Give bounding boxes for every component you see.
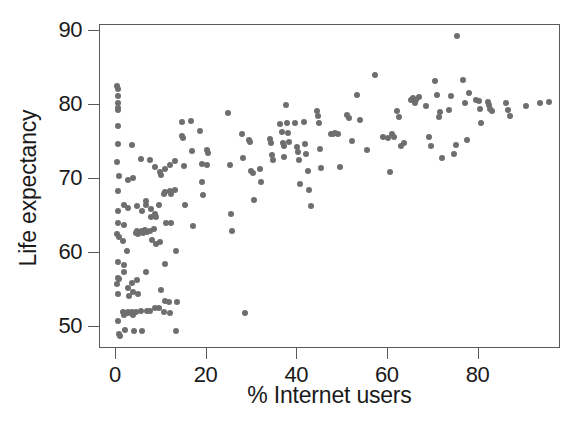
data-point: [546, 99, 552, 105]
data-point: [131, 328, 137, 334]
data-point: [172, 187, 178, 193]
data-point: [396, 114, 402, 120]
data-point: [283, 102, 289, 108]
data-point: [166, 299, 172, 305]
data-point: [462, 100, 468, 106]
data-point: [189, 148, 195, 154]
data-point: [537, 100, 543, 106]
y-tick-label: 50: [36, 313, 82, 339]
data-point: [277, 121, 283, 127]
data-point: [115, 208, 121, 214]
data-point: [227, 162, 233, 168]
data-point: [158, 287, 164, 293]
data-point: [180, 135, 186, 141]
y-tick-mark: [88, 104, 99, 105]
data-point: [448, 93, 454, 99]
data-point: [124, 248, 130, 254]
data-point: [434, 92, 440, 98]
data-point: [258, 179, 264, 185]
x-tick-mark: [115, 348, 116, 359]
data-point: [507, 113, 513, 119]
data-point: [228, 211, 234, 217]
data-point: [116, 173, 122, 179]
data-point: [476, 98, 482, 104]
data-point: [523, 103, 529, 109]
data-point: [205, 150, 211, 156]
x-tick-mark: [296, 348, 297, 359]
x-tick-mark: [387, 348, 388, 359]
data-point: [182, 202, 188, 208]
data-point: [391, 134, 397, 140]
data-point: [372, 72, 378, 78]
data-point: [308, 203, 314, 209]
data-point: [446, 107, 452, 113]
data-point: [239, 131, 245, 137]
data-points-layer: [100, 25, 559, 347]
data-point: [303, 151, 309, 157]
data-point: [451, 151, 457, 157]
y-tick-mark: [88, 30, 99, 31]
data-point: [172, 158, 178, 164]
plot-area: [99, 24, 560, 348]
data-point: [199, 179, 205, 185]
data-point: [134, 277, 140, 283]
data-point: [115, 86, 121, 92]
data-point: [115, 188, 121, 194]
data-point: [306, 187, 312, 193]
data-point: [257, 166, 263, 172]
data-point: [188, 118, 194, 124]
data-point: [251, 197, 257, 203]
y-tick-label: 70: [36, 165, 82, 191]
data-point: [317, 146, 323, 152]
data-point: [387, 169, 393, 175]
data-point: [135, 291, 141, 297]
data-point: [453, 142, 459, 148]
data-point: [250, 170, 256, 176]
data-point: [305, 168, 311, 174]
data-point: [268, 140, 274, 146]
data-point: [120, 238, 126, 244]
data-point: [173, 328, 179, 334]
y-tick-label: 60: [36, 239, 82, 265]
data-point: [242, 310, 248, 316]
data-point: [270, 157, 276, 163]
data-point: [478, 120, 484, 126]
data-point: [204, 162, 210, 168]
data-point: [121, 222, 127, 228]
data-point: [503, 100, 509, 106]
data-point: [117, 333, 123, 339]
data-point: [489, 108, 495, 114]
data-point: [167, 310, 173, 316]
y-tick-label: 80: [36, 91, 82, 117]
data-point: [162, 261, 168, 267]
data-point: [315, 113, 321, 119]
data-point: [437, 109, 443, 115]
data-point: [286, 139, 292, 145]
data-point: [432, 78, 438, 84]
data-point: [423, 103, 429, 109]
data-point: [115, 123, 121, 129]
data-point: [121, 269, 127, 275]
scatter-plot-figure: Life expectancy 5060708090 020406080 % I…: [0, 0, 583, 426]
data-point: [454, 33, 460, 39]
data-point: [157, 239, 163, 245]
y-tick-mark: [88, 326, 99, 327]
data-point: [115, 318, 121, 324]
data-point: [129, 142, 135, 148]
data-point: [357, 117, 363, 123]
data-point: [115, 259, 121, 265]
data-point: [179, 119, 185, 125]
data-point: [174, 299, 180, 305]
data-point: [225, 110, 231, 116]
data-point: [143, 269, 149, 275]
data-point: [337, 164, 343, 170]
data-point: [346, 115, 352, 121]
data-point: [173, 248, 179, 254]
data-point: [295, 149, 301, 155]
data-point: [302, 141, 308, 147]
data-point: [477, 106, 483, 112]
data-point: [151, 226, 157, 232]
data-point: [464, 137, 470, 143]
data-point: [364, 147, 370, 153]
data-point: [138, 156, 144, 162]
